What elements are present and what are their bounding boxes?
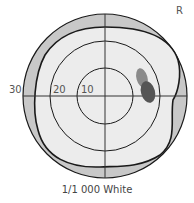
ring-label-10: 10 — [81, 84, 94, 95]
isopter-boundary — [35, 27, 180, 167]
chart-caption: 1/1 000 White — [0, 184, 194, 195]
eye-label: R — [176, 5, 183, 16]
ring-label-30: 30 — [9, 84, 22, 95]
visual-field-chart — [0, 0, 194, 203]
ring-label-20: 20 — [53, 84, 66, 95]
